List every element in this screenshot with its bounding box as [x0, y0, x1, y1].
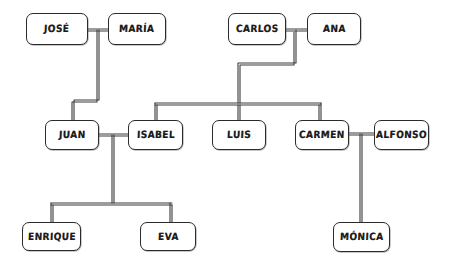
node-enrique[interactable]: Enrique	[22, 222, 81, 251]
node-label-isabel: Isabel	[136, 129, 174, 140]
connector-carmen-alfonso-to-monica	[360, 134, 362, 222]
node-luis[interactable]: Luis	[212, 120, 266, 150]
node-label-jose: José	[44, 23, 70, 34]
node-isabel[interactable]: Isabel	[128, 120, 183, 150]
node-carlos[interactable]: Carlos	[228, 13, 286, 45]
node-maria[interactable]: María	[108, 13, 166, 45]
connector-children-bar-juan-isabel	[51, 203, 172, 222]
node-ana[interactable]: Ana	[307, 13, 361, 45]
node-eva[interactable]: Eva	[140, 222, 196, 251]
connector-sibling-bar-gen2	[155, 103, 321, 120]
node-alfonso[interactable]: Alfonso	[374, 120, 429, 150]
node-carmen[interactable]: Carmen	[295, 120, 349, 150]
node-monica[interactable]: Mónica	[333, 222, 390, 252]
node-label-juan: Juan	[58, 129, 85, 140]
node-label-carmen: Carmen	[299, 129, 345, 140]
connector-jose-maria	[88, 29, 108, 31]
node-label-luis: Luis	[227, 129, 252, 140]
family-tree-diagram: José María Carlos Ana Juan Isabel Luis C…	[0, 0, 450, 265]
node-juan[interactable]: Juan	[45, 120, 99, 150]
connector-juan-isabel-to-children	[112, 135, 114, 203]
node-jose[interactable]: José	[26, 13, 88, 45]
node-label-carlos: Carlos	[236, 23, 279, 34]
node-label-eva: Eva	[157, 231, 178, 242]
node-label-enrique: Enrique	[27, 231, 75, 242]
node-label-maria: María	[119, 23, 155, 34]
node-label-alfonso: Alfonso	[376, 129, 427, 140]
node-label-monica: Mónica	[340, 231, 384, 242]
node-label-ana: Ana	[322, 23, 345, 34]
